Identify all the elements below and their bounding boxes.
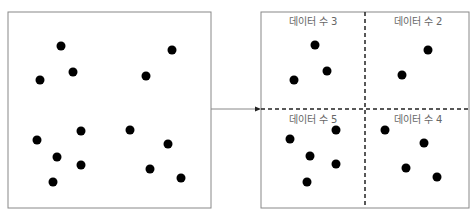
quadrant-label-bottom-right: 데이터 수 4 (394, 114, 443, 125)
data-point (332, 160, 341, 169)
quadrant-split-diagram: 데이터 수 3 데이터 수 2 데이터 수 5 데이터 수 4 (0, 0, 473, 212)
data-point (420, 139, 429, 148)
data-point (332, 126, 341, 135)
data-point (126, 126, 135, 135)
data-point (36, 76, 45, 85)
data-point (433, 173, 442, 182)
data-point (424, 46, 433, 55)
data-point (57, 42, 66, 51)
data-point (286, 135, 295, 144)
data-point (53, 153, 62, 162)
data-point (164, 140, 173, 149)
data-point (33, 136, 42, 145)
data-point (381, 126, 390, 135)
data-point (77, 127, 86, 136)
data-point (142, 72, 151, 81)
data-point (146, 165, 155, 174)
data-point (303, 178, 312, 187)
data-point (398, 71, 407, 80)
quadrant-label-top-left: 데이터 수 3 (289, 16, 338, 27)
data-point (49, 178, 58, 187)
arrow-head-icon (255, 107, 261, 112)
data-point (168, 46, 177, 55)
data-point (77, 161, 86, 170)
data-point (69, 68, 78, 77)
data-point (402, 164, 411, 173)
quadrant-label-bottom-left: 데이터 수 5 (289, 114, 338, 125)
data-point (177, 174, 186, 183)
quadrant-label-top-right: 데이터 수 2 (394, 16, 443, 27)
data-point (311, 41, 320, 50)
data-point (290, 76, 299, 85)
data-point (323, 67, 332, 76)
data-point (306, 152, 315, 161)
